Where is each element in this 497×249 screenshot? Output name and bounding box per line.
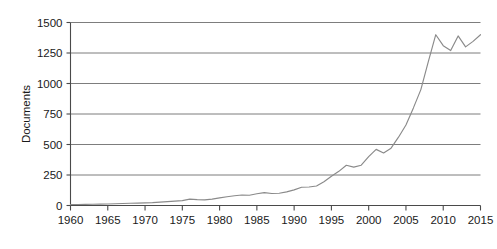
x-tick-label: 2015: [468, 214, 494, 226]
y-tick-label: 250: [43, 169, 62, 181]
chart-container: 0250500750100012501500 19601965197019751…: [0, 0, 497, 249]
y-tick-label: 0: [56, 200, 62, 212]
x-tick-label: 1995: [319, 214, 345, 226]
y-tick-label: 1000: [37, 78, 63, 90]
chart-background: [0, 0, 497, 249]
x-tick-label: 1965: [95, 214, 121, 226]
x-tick-label: 1985: [244, 214, 270, 226]
y-tick-label: 1500: [37, 17, 63, 29]
y-axis-title: Documents: [20, 85, 32, 143]
y-tick-label: 500: [43, 139, 62, 151]
line-chart: 0250500750100012501500 19601965197019751…: [0, 0, 497, 249]
x-tick-label: 1980: [207, 214, 233, 226]
x-tick-label: 1970: [132, 214, 158, 226]
x-tick-label: 1975: [170, 214, 196, 226]
y-tick-label: 1250: [37, 47, 63, 59]
x-tick-label: 2005: [393, 214, 419, 226]
x-tick-label: 2000: [356, 214, 382, 226]
x-tick-label: 1990: [281, 214, 307, 226]
x-tick-label: 1960: [58, 214, 84, 226]
x-tick-label: 2010: [430, 214, 456, 226]
y-tick-label: 750: [43, 108, 62, 120]
